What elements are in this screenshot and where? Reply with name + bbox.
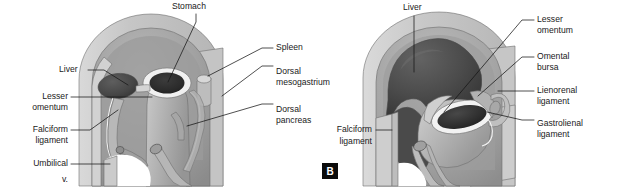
lesser-omentum-a bbox=[136, 85, 150, 92]
ventral-wall-strip-a bbox=[104, 156, 117, 186]
panel-b-badge: B bbox=[322, 163, 338, 179]
label-lesser-omentum-a-line1: Lesser bbox=[42, 91, 68, 101]
label-umbilical-vein-line2: v. bbox=[62, 174, 68, 184]
label-dorsal-mesogastrium-line2: mesogastrium bbox=[276, 77, 330, 87]
ventral-wall-strip-b bbox=[376, 114, 392, 186]
label-liver-b: Liver bbox=[403, 2, 422, 12]
panel-b-illustration bbox=[363, 12, 515, 186]
spleen-bud-top-a bbox=[197, 75, 211, 83]
label-omental-bursa-line1: Omental bbox=[537, 51, 570, 61]
label-falciform-a-line2: ligament bbox=[36, 135, 69, 145]
label-gastrolienal-line2: ligament bbox=[537, 129, 570, 139]
label-lesser-omentum-b-line2: omentum bbox=[537, 25, 573, 35]
label-lesser-omentum-a-line2: omentum bbox=[32, 102, 68, 112]
label-falciform-b-line1: Falciform bbox=[337, 124, 372, 134]
falciform-ligament-b bbox=[392, 112, 398, 186]
panel-a-illustration bbox=[79, 14, 223, 186]
label-spleen: Spleen bbox=[276, 42, 303, 52]
label-dorsal-mesogastrium-line1: Dorsal bbox=[276, 66, 301, 76]
label-dorsal-pancreas-line2: pancreas bbox=[276, 115, 311, 125]
figure-canvas: Stomach Spleen Dorsal mesogastrium Dorsa… bbox=[0, 0, 619, 191]
label-liver-a: Liver bbox=[59, 64, 78, 74]
label-lienorenal-line1: Lienorenal bbox=[537, 85, 577, 95]
anatomy-figure: Stomach Spleen Dorsal mesogastrium Dorsa… bbox=[0, 0, 619, 191]
label-lienorenal-line2: ligament bbox=[537, 96, 570, 106]
label-gastrolienal-line1: Gastrolienal bbox=[537, 118, 583, 128]
label-falciform-b-line2: ligament bbox=[340, 136, 373, 146]
label-lesser-omentum-b-line1: Lesser bbox=[537, 14, 563, 24]
label-dorsal-pancreas-line1: Dorsal bbox=[276, 104, 301, 114]
umbilical-vein-cut-a bbox=[116, 146, 124, 153]
label-falciform-a-line1: Falciform bbox=[33, 124, 68, 134]
panel-badge-letter: B bbox=[326, 166, 333, 177]
label-stomach: Stomach bbox=[172, 1, 206, 11]
label-umbilical-vein-line1: Umbilical bbox=[33, 158, 68, 168]
label-omental-bursa-line2: bursa bbox=[537, 62, 559, 72]
stomach-lumen-a bbox=[150, 73, 185, 94]
